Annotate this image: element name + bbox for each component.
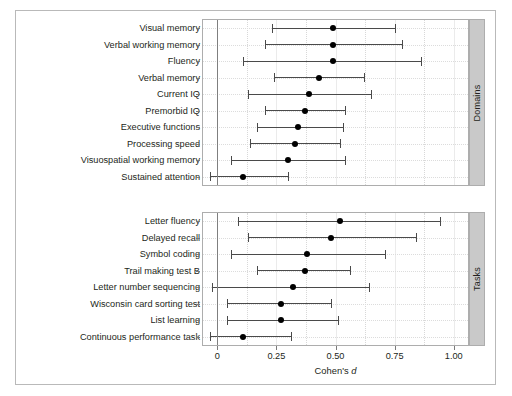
effect-size-marker <box>316 75 322 81</box>
y-axis-labels-tasks: Letter fluencyDelayed recallSymbol codin… <box>4 212 200 346</box>
effect-size-marker <box>240 334 246 340</box>
effect-size-marker <box>302 108 308 114</box>
effect-size-marker <box>285 157 291 163</box>
x-axis-tick <box>276 346 277 350</box>
ci-cap-upper <box>364 73 365 82</box>
ci-cap-lower <box>231 156 232 165</box>
data-point-row <box>203 152 468 168</box>
ci-cap-lower <box>265 106 266 115</box>
effect-size-marker <box>304 251 310 257</box>
ci-cap-upper <box>402 40 403 49</box>
y-axis-tick <box>196 287 200 288</box>
ci-cap-lower <box>257 123 258 132</box>
y-axis-tick <box>196 177 200 178</box>
effect-size-marker <box>330 25 336 31</box>
effect-size-marker <box>240 174 246 180</box>
y-axis-tick-label: Trail making test B <box>10 266 200 276</box>
data-point-row <box>203 103 468 119</box>
y-axis-tick <box>196 320 200 321</box>
data-point-row <box>203 263 468 279</box>
y-axis-tick-label: Premorbid IQ <box>10 106 200 116</box>
ci-cap-lower <box>274 73 275 82</box>
ci-cap-lower <box>210 332 211 341</box>
y-axis-tick-label: Letter number sequencing <box>10 282 200 292</box>
effect-size-marker <box>290 284 296 290</box>
y-axis-tick <box>196 304 200 305</box>
data-point-row <box>203 279 468 295</box>
data-point-row <box>203 213 468 229</box>
data-point-row <box>203 136 468 152</box>
y-axis-tick-label: Current IQ <box>10 89 200 99</box>
data-point-row <box>203 169 468 185</box>
effect-size-marker <box>330 42 336 48</box>
y-axis-tick <box>196 94 200 95</box>
x-axis-tick-label: 0 <box>215 351 220 361</box>
x-axis-tick <box>217 346 218 350</box>
panel-strip-label-domains: Domains <box>472 84 482 121</box>
ci-cap-upper <box>291 332 292 341</box>
confidence-interval-line <box>210 336 290 337</box>
data-point-row <box>203 230 468 246</box>
ci-cap-lower <box>212 283 213 292</box>
effect-size-marker <box>295 124 301 130</box>
panel-strip-domains: Domains <box>469 19 485 186</box>
forest-plot-figure: Visual memoryVerbal working memoryFluenc… <box>0 0 512 396</box>
y-axis-tick <box>196 144 200 145</box>
y-axis-tick-label: Sustained attention <box>10 172 200 182</box>
x-axis-tick-label: 0.75 <box>386 351 404 361</box>
y-axis-tick-label: Visual memory <box>10 23 200 33</box>
ci-cap-upper <box>343 123 344 132</box>
panel-strip-tasks: Tasks <box>469 212 485 346</box>
y-axis-tick-label: Executive functions <box>10 122 200 132</box>
y-axis-tick <box>196 221 200 222</box>
ci-cap-lower <box>210 172 211 181</box>
y-axis-tick <box>196 78 200 79</box>
panel-domains <box>202 19 469 186</box>
ci-cap-lower <box>248 90 249 99</box>
data-point-row <box>203 37 468 53</box>
data-point-row <box>203 53 468 69</box>
ci-cap-lower <box>265 40 266 49</box>
y-axis-tick-label: Delayed recall <box>10 233 200 243</box>
y-axis-tick <box>196 337 200 338</box>
x-axis-tick-label: 0.50 <box>327 351 345 361</box>
ci-cap-upper <box>395 24 396 33</box>
x-axis: Cohen's d 00.250.500.751.00 <box>202 346 469 386</box>
effect-size-marker <box>328 235 334 241</box>
ci-cap-lower <box>231 250 232 259</box>
ci-cap-upper <box>331 299 332 308</box>
y-axis-tick-label: Symbol coding <box>10 249 200 259</box>
ci-cap-lower <box>227 316 228 325</box>
panel-strip-label-tasks: Tasks <box>472 267 482 291</box>
ci-cap-lower <box>257 266 258 275</box>
y-axis-tick <box>196 127 200 128</box>
x-axis-title: Cohen's d <box>202 365 469 376</box>
panel-tasks <box>202 212 469 346</box>
ci-cap-upper <box>421 57 422 66</box>
ci-cap-upper <box>385 250 386 259</box>
ci-cap-lower <box>250 139 251 148</box>
ci-cap-upper <box>340 139 341 148</box>
x-axis-title-symbol: d <box>351 365 356 376</box>
confidence-interval-line <box>210 176 288 177</box>
y-axis-tick <box>196 111 200 112</box>
effect-size-marker <box>278 317 284 323</box>
ci-cap-upper <box>369 283 370 292</box>
ci-cap-upper <box>440 217 441 226</box>
ci-cap-lower <box>227 299 228 308</box>
data-point-row <box>203 86 468 102</box>
x-axis-tick <box>395 346 396 350</box>
effect-size-marker <box>306 91 312 97</box>
effect-size-marker <box>330 58 336 64</box>
y-axis-tick <box>196 45 200 46</box>
ci-cap-upper <box>416 233 417 242</box>
data-point-row <box>203 296 468 312</box>
y-axis-tick-label: Letter fluency <box>10 216 200 226</box>
x-axis-tick-label: 1.00 <box>445 351 463 361</box>
effect-size-marker <box>292 141 298 147</box>
y-axis-tick-label: Fluency <box>10 56 200 66</box>
effect-size-marker <box>337 218 343 224</box>
ci-cap-upper <box>371 90 372 99</box>
y-axis-tick-label: Wisconsin card sorting test <box>10 299 200 309</box>
ci-cap-upper <box>288 172 289 181</box>
